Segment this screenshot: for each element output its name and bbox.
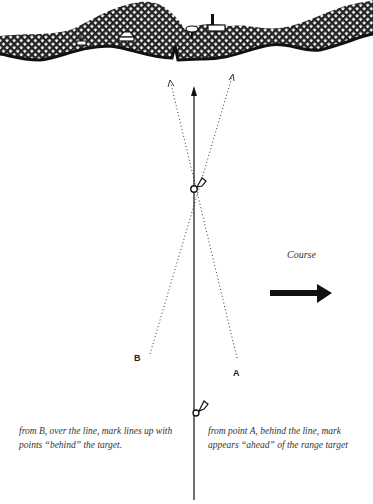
point-b-label: B	[134, 353, 141, 363]
sight-line-from-b	[150, 77, 232, 354]
sight-line-from-a	[171, 84, 237, 358]
point-a-label: A	[233, 368, 240, 378]
course-label: Course	[287, 249, 316, 260]
sight-line-from-b-arrowhead	[229, 74, 234, 81]
range-marker-upper-icon	[191, 178, 206, 192]
range-marker-lower-icon	[193, 401, 208, 416]
landmark-tower-icon	[208, 14, 225, 34]
course-arrow-icon	[270, 284, 332, 303]
range-line-arrowhead	[191, 86, 197, 96]
caption-left: from B, over the line, mark lines up wit…	[19, 424, 184, 452]
sight-line-from-a-arrowhead	[168, 80, 174, 87]
caption-right: from point A, behind the line, mark appe…	[208, 424, 373, 452]
